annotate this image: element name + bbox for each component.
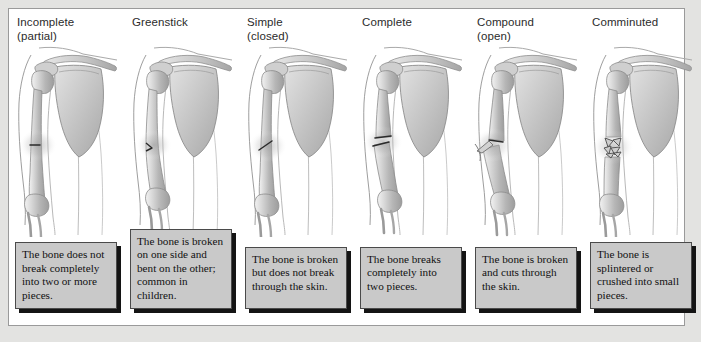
column-title-comminuted: Comminuted (592, 16, 700, 30)
fracture-shading-comminuted (592, 130, 634, 164)
illustration-compound (469, 45, 584, 237)
illustration-comminuted (584, 45, 699, 237)
caption-comminuted: The bone is splintered or crushed into s… (590, 242, 692, 309)
column-title-simple: Simple (closed) (247, 16, 355, 43)
caption-greenstick: The bone is broken on one side and bent … (130, 229, 232, 309)
figure-frame: Incomplete (partial) The bone does not b… (8, 8, 685, 326)
caption-complete: The bone breaks completely into two piec… (360, 247, 462, 309)
column-simple: Simple (closed) The bone is broken but d… (239, 9, 354, 325)
fracture-shading-complete (363, 126, 403, 158)
column-title-complete: Complete (362, 16, 470, 30)
fracture-shading-greenstick (136, 130, 172, 160)
caption-simple: The bone is broken but does not break th… (245, 247, 347, 309)
fracture-shading-simple (249, 130, 287, 162)
illustration-greenstick (124, 45, 239, 237)
column-title-greenstick: Greenstick (132, 16, 240, 30)
illustration-incomplete (9, 45, 124, 237)
column-complete: Complete The bone breaks completely int (354, 9, 469, 325)
column-title-compound: Compound (open) (477, 16, 585, 43)
illustration-complete (354, 45, 469, 237)
column-compound: Compound (open) The bone is broken and (469, 9, 584, 325)
bone-fragments-comminuted (604, 138, 621, 158)
column-incomplete: Incomplete (partial) The bone does not b… (9, 9, 124, 325)
illustration-simple (239, 45, 354, 237)
column-comminuted: Comminuted (584, 9, 699, 325)
caption-incomplete: The bone does not break completely into … (15, 242, 117, 309)
column-title-incomplete: Incomplete (partial) (17, 16, 125, 43)
figure-inner: Incomplete (partial) The bone does not b… (9, 9, 684, 325)
caption-compound: The bone is broken and cuts through the … (475, 247, 577, 309)
column-greenstick: Greenstick The bone is broken on one sid… (124, 9, 239, 325)
